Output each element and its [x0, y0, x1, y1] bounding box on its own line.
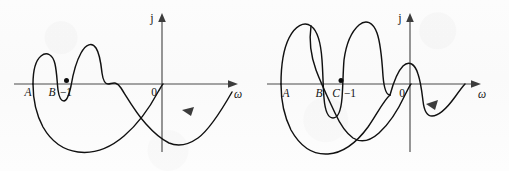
label-j-axis-right: j	[397, 11, 401, 25]
label-omega-axis-left: ω	[234, 88, 242, 100]
horizontal-axis-arrowhead-right	[471, 80, 481, 88]
label-origin-right: 0	[399, 87, 405, 99]
nyquist-plot-right: A B C −1 0 j ω	[255, 0, 509, 171]
label-omega-axis-right: ω	[478, 88, 486, 100]
nyquist-inner-loop-right	[310, 26, 411, 141]
vertical-axis-arrowhead-right	[406, 13, 414, 22]
nyquist-left-lobe-right	[281, 22, 390, 118]
label-minus-one-left: −1	[60, 86, 72, 98]
label-A-right: A	[281, 87, 290, 99]
label-j-axis-left: j	[149, 11, 153, 25]
label-A-left: A	[23, 86, 32, 98]
direction-arrow-right	[426, 100, 438, 110]
label-B-right: B	[315, 87, 322, 99]
critical-point-dot-right	[339, 78, 344, 83]
label-C-right: C	[332, 87, 340, 99]
vertical-axis-arrowhead-left	[158, 13, 166, 22]
label-B-left: B	[48, 86, 55, 98]
horizontal-axis-arrowhead-left	[228, 80, 238, 88]
nyquist-plot-left: A B −1 0 j ω	[0, 0, 255, 171]
label-origin-left: 0	[151, 86, 157, 98]
figure-container: A B −1 0 j ω	[0, 0, 509, 171]
direction-arrow-left	[182, 107, 194, 116]
critical-point-dot-left	[64, 78, 69, 83]
label-minus-one-right: −1	[344, 87, 356, 99]
